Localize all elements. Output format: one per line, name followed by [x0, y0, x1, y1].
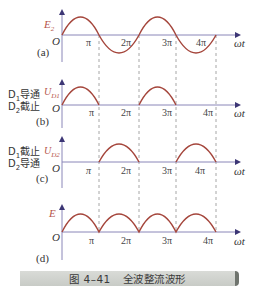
half-wave-ud2 [99, 144, 216, 162]
ylabel-c: UD2 [44, 146, 60, 159]
xlabel-c: ωt [234, 166, 245, 177]
ylabel-d: E [49, 208, 56, 219]
tick-pi-a: π [86, 38, 91, 48]
panel-d [62, 207, 238, 260]
panel-tag-a: (a) [37, 47, 49, 58]
tick-2pi-b: 2π [121, 108, 131, 118]
origin-c: O [52, 163, 60, 174]
panel-tag-c: (c) [36, 173, 48, 184]
half-wave-ud1 [62, 87, 176, 105]
panel-b [62, 82, 238, 128]
annotation-d2-off: D2截止 [8, 101, 40, 115]
dashed-guides [99, 35, 216, 232]
tick-3pi-c: 3π [162, 166, 172, 176]
tick-2pi-c: 2π [121, 166, 131, 176]
tick-4pi-d: 4π [203, 236, 213, 246]
tick-4pi-a: 4π [196, 38, 206, 48]
annotation-d2-on: D2导通 [8, 158, 40, 172]
tick-3pi-b: 3π [162, 108, 172, 118]
origin-b: O [52, 103, 60, 114]
panel-c [62, 139, 238, 188]
xlabel-a: ωt [234, 38, 245, 49]
tick-2pi-d: 2π [121, 236, 131, 246]
panel-tag-d: (d) [36, 253, 49, 264]
figure-number: 图 4–41 [69, 271, 111, 286]
tick-pi-d: π [89, 236, 94, 246]
ylabel-a: E2 [44, 19, 54, 33]
figure-title: 全波整流波形 [123, 271, 186, 286]
figure-caption: 图 4–41 全波整流波形 [20, 271, 239, 286]
tick-3pi-a: 3π [162, 38, 172, 48]
origin-a: O [52, 36, 60, 47]
xlabel-d: ωt [234, 236, 245, 247]
tick-4pi-b: 4π [203, 108, 213, 118]
tick-2pi-a: 2π [121, 38, 131, 48]
xlabel-b: ωt [234, 108, 245, 119]
tick-pi-b: π [89, 108, 94, 118]
tick-3pi-d: 3π [162, 236, 172, 246]
origin-d: O [52, 232, 60, 243]
panel-tag-b: (b) [36, 116, 49, 127]
tick-pi-c: π [86, 166, 91, 176]
tick-4pi-c: 4π [195, 166, 205, 176]
ylabel-b: UD1 [44, 87, 60, 100]
